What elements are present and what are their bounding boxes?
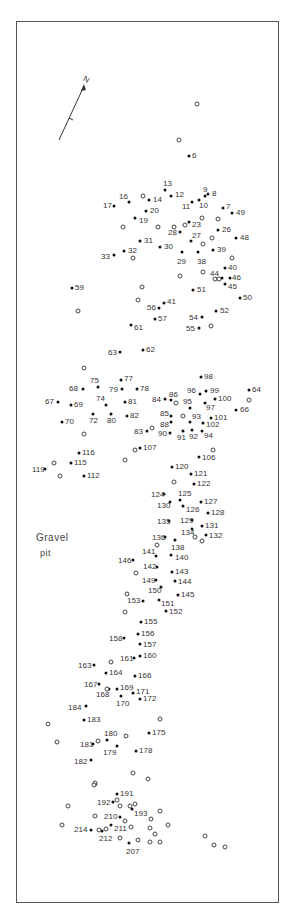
point-label: 175: [152, 729, 165, 737]
filled-point: [90, 829, 93, 832]
point-label: 141: [142, 548, 155, 556]
filled-point: [148, 199, 151, 202]
point-label: 192: [97, 799, 110, 807]
point-label: 214: [74, 826, 87, 834]
filled-point: [191, 201, 194, 204]
filled-point: [57, 401, 60, 404]
point-label: 124: [151, 491, 164, 499]
point-label: 49: [236, 209, 245, 217]
point-label: 91: [177, 434, 186, 442]
filled-point: [222, 207, 225, 210]
filled-point: [170, 195, 173, 198]
open-point: [52, 461, 57, 466]
filled-point: [177, 594, 180, 597]
open-point: [166, 823, 171, 828]
point-label: 119: [32, 466, 45, 474]
open-point: [124, 734, 129, 739]
open-point: [223, 845, 228, 850]
open-point: [172, 480, 177, 485]
point-label: 92: [189, 433, 198, 441]
open-point: [76, 309, 81, 314]
filled-point: [204, 195, 207, 198]
filled-point: [193, 483, 196, 486]
point-label: 51: [197, 286, 206, 294]
open-point: [125, 592, 130, 597]
filled-point: [83, 719, 86, 722]
filled-point: [207, 512, 210, 515]
filled-point: [239, 297, 242, 300]
filled-point: [124, 401, 127, 404]
point-label: 136: [152, 534, 165, 542]
filled-point: [224, 267, 227, 270]
filled-point: [198, 327, 201, 330]
point-label: 40: [228, 264, 237, 272]
open-point: [247, 398, 252, 403]
point-label: 50: [243, 294, 252, 302]
point-label: 112: [87, 472, 100, 480]
point-label: 54: [189, 314, 198, 322]
point-label: 153: [127, 597, 140, 605]
open-point: [149, 817, 154, 822]
open-point: [158, 840, 163, 845]
point-label: 168: [96, 691, 109, 699]
open-point: [129, 825, 134, 830]
open-point: [211, 448, 216, 453]
point-label: 180: [104, 730, 117, 738]
point-label: 158: [109, 635, 122, 643]
point-label: 48: [240, 234, 249, 242]
filled-point: [71, 287, 74, 290]
filled-point: [200, 376, 203, 379]
point-label: 70: [65, 418, 74, 426]
point-label: 160: [143, 652, 156, 660]
point-label: 138: [171, 544, 184, 552]
point-label: 30: [164, 243, 173, 251]
point-label: 157: [143, 641, 156, 649]
open-point: [181, 414, 186, 419]
point-label: 59: [75, 284, 84, 292]
filled-point: [170, 554, 173, 557]
point-label: 52: [220, 307, 229, 315]
point-label: 6: [192, 152, 196, 160]
filled-point: [202, 422, 205, 425]
point-label: 120: [175, 463, 188, 471]
point-label: 81: [128, 398, 137, 406]
point-label: 98: [204, 373, 213, 381]
filled-point: [189, 407, 192, 410]
point-label: 56: [147, 304, 156, 312]
point-label: 57: [158, 315, 167, 323]
point-label: 79: [109, 386, 118, 394]
point-label: 145: [181, 591, 194, 599]
filled-point: [97, 386, 100, 389]
point-label: 46: [232, 274, 241, 282]
point-label: 85: [160, 410, 169, 418]
filled-point: [121, 388, 124, 391]
filled-point: [163, 302, 166, 305]
point-label: 135: [157, 518, 170, 526]
filled-point: [130, 324, 133, 327]
point-label: 140: [175, 554, 188, 562]
point-label: 161: [120, 655, 133, 663]
filled-point: [169, 432, 172, 435]
filled-point: [248, 389, 251, 392]
open-point: [82, 366, 87, 371]
filled-point: [85, 705, 88, 708]
point-label: 132: [209, 532, 222, 540]
point-label: 184: [68, 704, 81, 712]
point-label: 69: [74, 401, 83, 409]
point-label: 126: [186, 506, 199, 514]
filled-point: [132, 692, 135, 695]
point-label: 178: [139, 747, 152, 755]
point-label: 9: [203, 186, 207, 194]
filled-point: [200, 501, 203, 504]
filled-point: [110, 824, 113, 827]
open-point: [148, 840, 153, 845]
filled-point: [116, 793, 119, 796]
filled-point: [205, 534, 208, 537]
filled-point: [93, 664, 96, 667]
filled-point: [174, 580, 177, 583]
gravel-pit-label: Gravel: [36, 532, 68, 543]
point-label: 16: [119, 193, 128, 201]
open-point: [118, 836, 123, 841]
open-point: [174, 401, 179, 406]
open-point: [121, 225, 126, 230]
